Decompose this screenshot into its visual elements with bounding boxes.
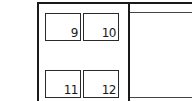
slot-label: 11 [64,84,78,96]
slot-label: 9 [71,27,78,39]
right-panel-top-line [130,12,192,13]
slot-label: 12 [102,84,116,96]
slot-10: 10 [83,13,119,41]
panel-frame-top-border [37,2,192,4]
right-panel-bottom-line [130,97,192,98]
panel-divider [128,2,130,101]
slot-9: 9 [45,13,81,41]
panel-frame-left-border [37,2,39,101]
slot-11: 11 [45,70,81,98]
slot-12: 12 [83,70,119,98]
slot-label: 10 [102,27,116,39]
